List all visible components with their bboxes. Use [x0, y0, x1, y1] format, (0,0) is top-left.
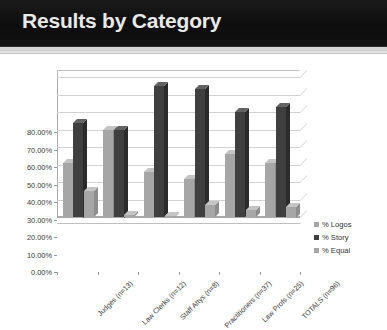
y-axis-tick-label: 10.00% — [27, 250, 52, 259]
bar[interactable] — [63, 163, 73, 217]
legend-label: % Logos — [322, 220, 352, 229]
y-axis-tick-label: 50.00% — [27, 180, 52, 189]
legend-swatch-icon — [314, 248, 319, 253]
bar-face — [286, 207, 296, 218]
y-axis-tick-mark — [54, 237, 57, 238]
plot-depth-top — [57, 70, 300, 77]
bar-side — [124, 126, 128, 218]
bar[interactable] — [124, 215, 134, 217]
gridline-depth — [300, 105, 307, 113]
bar-group — [260, 77, 301, 217]
legend-label: % Story — [322, 233, 349, 242]
bar-face — [63, 163, 73, 217]
bar-side — [286, 103, 290, 217]
bar[interactable] — [103, 130, 113, 218]
x-axis-category-label: TOTALS (n=96) — [299, 279, 341, 321]
bar-face — [276, 107, 286, 217]
bar-face — [124, 215, 134, 217]
bar-face — [235, 112, 245, 217]
bar-group — [98, 77, 139, 217]
bar-face — [103, 130, 113, 218]
bar-side — [205, 85, 209, 217]
y-axis-tick-label: 0.00% — [31, 268, 52, 277]
gridline-depth — [300, 123, 307, 131]
y-axis-tick-label: 60.00% — [27, 163, 52, 172]
legend-item[interactable]: % Equal — [314, 244, 352, 257]
bar-face — [265, 163, 275, 217]
bar-face — [165, 216, 175, 217]
y-axis-tick-label: 70.00% — [27, 145, 52, 154]
bar-side — [164, 82, 168, 217]
bar-face — [246, 210, 256, 217]
bar-group — [57, 77, 98, 217]
bar[interactable] — [265, 163, 275, 217]
bar[interactable] — [276, 107, 286, 217]
bar[interactable] — [246, 210, 256, 217]
bar-face — [154, 86, 164, 217]
gridline-depth — [300, 210, 307, 218]
bar-face — [184, 179, 194, 218]
page-title: Results by Category — [22, 9, 221, 33]
title-divider — [0, 47, 387, 54]
bar[interactable] — [165, 216, 175, 217]
plot-area — [57, 77, 300, 217]
bar[interactable] — [184, 179, 194, 218]
legend-label: % Equal — [322, 246, 350, 255]
gridline-depth — [300, 193, 307, 201]
bar[interactable] — [144, 172, 154, 218]
bar-face — [73, 123, 83, 218]
slide-title-banner: Results by Category — [0, 0, 387, 47]
legend-item[interactable]: % Logos — [314, 218, 352, 231]
bar[interactable] — [235, 112, 245, 217]
bar-group — [138, 77, 179, 217]
gridline-depth — [300, 88, 307, 96]
chart-legend: % Logos% Story% Equal — [314, 218, 352, 257]
bar-face — [144, 172, 154, 218]
bar[interactable] — [114, 130, 124, 218]
x-axis-tick-mark — [57, 272, 58, 275]
bar-face — [195, 89, 205, 217]
x-axis-tick-mark — [260, 272, 261, 275]
bar[interactable] — [195, 89, 205, 217]
bar[interactable] — [205, 205, 215, 217]
bar-group — [219, 77, 260, 217]
x-axis-tick-mark — [300, 272, 301, 275]
x-axis-tick-mark — [219, 272, 220, 275]
bar-group — [179, 77, 220, 217]
y-axis-tick-mark — [54, 255, 57, 256]
legend-item[interactable]: % Story — [314, 231, 352, 244]
y-axis-tick-label: 20.00% — [27, 233, 52, 242]
gridline-depth — [300, 158, 307, 166]
bar[interactable] — [73, 123, 83, 218]
plot-floor — [57, 217, 300, 224]
chart-container: 80.00%70.00%60.00%50.00%40.00%30.00%20.0… — [0, 55, 387, 300]
legend-swatch-icon — [314, 235, 319, 240]
x-axis-category-label: Law Clerks (n=12) — [140, 279, 188, 327]
bar-face — [205, 205, 215, 217]
y-axis-tick-label: 80.00% — [27, 128, 52, 137]
x-axis-tick-mark — [179, 272, 180, 275]
gridline-depth — [300, 70, 307, 78]
x-axis-tick-mark — [138, 272, 139, 275]
bar[interactable] — [286, 207, 296, 218]
bar[interactable] — [225, 154, 235, 217]
bar[interactable] — [84, 191, 94, 217]
x-axis-tick-mark — [98, 272, 99, 275]
gridline-depth — [300, 175, 307, 183]
y-axis-tick-label: 40.00% — [27, 198, 52, 207]
x-axis-category-label: Judges (n=13) — [96, 279, 135, 318]
y-axis-tick-label: 30.00% — [27, 215, 52, 224]
y-axis-tick-mark — [54, 220, 57, 221]
bar-face — [114, 130, 124, 218]
bar-face — [84, 191, 94, 217]
bar[interactable] — [154, 86, 164, 217]
bar-side — [245, 108, 249, 217]
legend-swatch-icon — [314, 222, 319, 227]
gridline-depth — [300, 140, 307, 148]
bar-face — [225, 154, 235, 217]
